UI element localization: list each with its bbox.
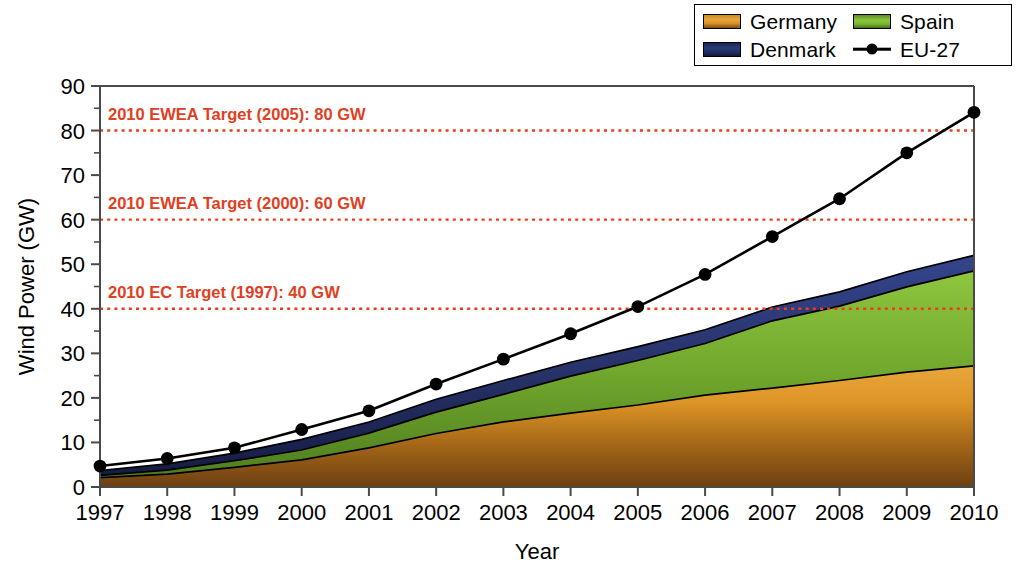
eu27-point-1999: [228, 441, 241, 454]
y-tick-label-40: 40: [61, 297, 85, 322]
x-tick-label-1997: 1997: [76, 500, 125, 525]
x-tick-label-2009: 2009: [882, 500, 931, 525]
x-axis-title: Year: [515, 539, 559, 563]
eu27-point-1998: [161, 452, 174, 465]
x-tick-label-2001: 2001: [344, 500, 393, 525]
eu27-point-2001: [363, 404, 376, 417]
y-tick-label-0: 0: [73, 475, 85, 500]
y-tick-label-60: 60: [61, 208, 85, 233]
eu27-point-2000: [295, 423, 308, 436]
x-tick-label-2010: 2010: [950, 500, 999, 525]
x-tick-label-2006: 2006: [681, 500, 730, 525]
eu27-point-2009: [900, 146, 913, 159]
y-tick-label-50: 50: [61, 252, 85, 277]
eu27-point-2004: [564, 327, 577, 340]
y-tick-label-80: 80: [61, 119, 85, 144]
eu27-point-2008: [833, 192, 846, 205]
eu27-point-2002: [430, 378, 443, 391]
y-tick-label-20: 20: [61, 386, 85, 411]
eu27-point-2003: [497, 353, 510, 366]
y-tick-label-30: 30: [61, 341, 85, 366]
x-tick-label-2002: 2002: [412, 500, 461, 525]
chart-canvas: 2010 EWEA Target (2005): 80 GW2010 EWEA …: [0, 0, 1022, 563]
plot-area: 2010 EWEA Target (2005): 80 GW2010 EWEA …: [0, 0, 1022, 563]
eu27-point-2006: [699, 268, 712, 281]
eu27-point-2005: [631, 300, 644, 313]
x-tick-label-2003: 2003: [479, 500, 528, 525]
x-tick-label-2004: 2004: [546, 500, 595, 525]
x-tick-label-2008: 2008: [815, 500, 864, 525]
y-tick-label-70: 70: [61, 163, 85, 188]
y-tick-label-90: 90: [61, 74, 85, 99]
y-tick-label-10: 10: [61, 430, 85, 455]
x-tick-label-2007: 2007: [748, 500, 797, 525]
x-tick-label-1999: 1999: [210, 500, 259, 525]
y-axis-title: Wind Power (GW): [14, 198, 39, 375]
eu27-point-2010: [968, 106, 981, 119]
x-tick-label-2000: 2000: [277, 500, 326, 525]
target-label-60: 2010 EWEA Target (2000): 60 GW: [108, 194, 366, 212]
eu27-point-2007: [766, 230, 779, 243]
target-label-80: 2010 EWEA Target (2005): 80 GW: [108, 105, 366, 123]
target-label-40: 2010 EC Target (1997): 40 GW: [108, 283, 340, 301]
x-tick-label-2005: 2005: [613, 500, 662, 525]
chart-figure: Germany Spain Denmark EU-27: [0, 0, 1022, 563]
eu27-point-1997: [94, 460, 107, 473]
x-tick-label-1998: 1998: [143, 500, 192, 525]
